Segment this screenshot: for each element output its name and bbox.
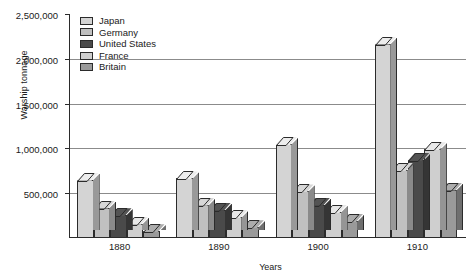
legend-item-japan: Japan [80,15,156,27]
bar-japan-1880 [77,180,94,238]
bar-side-face [308,185,315,230]
bar-japan-1900 [276,144,293,238]
y-axis-tick: 1,500,000 [65,104,70,105]
y-axis-tick-label: 1,000,000 [16,144,58,155]
legend-item-britain: Britain [80,61,156,73]
bar-side-face [93,174,100,230]
bar-side-face [192,172,199,230]
y-axis-tick: 1,000,000 [65,148,70,149]
gridline [70,104,466,105]
bar-japan-1890 [176,178,193,238]
y-axis-tick-label: 1,500,000 [16,99,58,110]
y-axis-tick: 500,000 [65,193,70,194]
x-axis-tick-label: 1890 [208,241,229,252]
bar-side-face [456,184,463,230]
legend-swatch [80,17,93,25]
bar-side-face [440,143,447,230]
legend-label: Japan [99,15,125,27]
legend-swatch [80,63,93,71]
y-axis-tick: 2,500,000 [65,14,70,15]
x-axis-title: Years [68,262,473,272]
bar-side-face [390,38,397,230]
bar-japan-1910 [375,44,392,238]
bar-side-face [291,138,298,230]
legend-swatch [80,40,93,48]
legend-item-germany: Germany [80,27,156,39]
y-axis-tick: 2,000,000 [65,59,70,60]
x-axis-tick-label: 1910 [407,241,428,252]
legend-item-united-states: United States [80,38,156,50]
bar-side-face [407,164,414,230]
legend-item-france: France [80,50,156,62]
bar-side-face [423,154,430,230]
y-axis-title: Warship tonnage [19,15,29,155]
legend-label: Britain [99,61,126,73]
legend-label: United States [99,38,156,50]
y-axis-tick-label: 2,000,000 [16,54,58,65]
y-axis-tick-label: 500,000 [24,189,58,200]
bar-side-face [324,199,331,230]
legend-swatch [80,28,93,36]
bar-britain-1880 [143,231,160,238]
y-axis-tick-label: 2,500,000 [16,10,58,21]
warship-tonnage-chart: Warship tonnage Years 500,0001,000,0001,… [0,0,473,280]
legend-label: France [99,50,129,62]
chart-legend: JapanGermanyUnited StatesFranceBritain [80,15,156,73]
x-axis-tick-label: 1900 [308,241,329,252]
legend-label: Germany [99,27,138,39]
gridline [70,148,466,149]
legend-swatch [80,52,93,60]
bar-side-face [208,199,215,230]
x-axis-tick-label: 1880 [109,241,130,252]
